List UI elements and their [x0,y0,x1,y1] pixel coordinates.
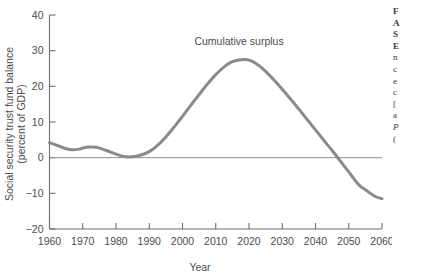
y-tick-label: 40 [32,9,44,21]
x-tick-label: 2010 [204,235,228,247]
caption-line: c [393,87,430,99]
y-tick-label: 20 [32,80,44,92]
caption-line: n [393,52,430,64]
caption-line: S [393,29,430,41]
caption-line: F [393,6,430,18]
x-tick-label: 2030 [271,235,295,247]
figure-root: 403020100−10−20 196019701980199020002010… [0,0,430,275]
x-tick-label: 1960 [38,235,62,247]
y-axis-ticks: 403020100−10−20 [26,9,56,235]
y-tick-label: 30 [32,44,44,56]
x-tick-label: 2000 [171,235,195,247]
caption-line: e [393,76,430,88]
x-axis-ticks: 1960197019801990200020102020203020402050… [38,223,392,247]
x-tick-label: 2020 [237,235,261,247]
x-tick-label: 1970 [71,235,95,247]
chart-plot-area: 403020100−10−20 196019701980199020002010… [0,0,392,275]
line-chart: 403020100−10−20 196019701980199020002010… [0,0,392,275]
caption-line: ( [393,134,430,146]
x-tick-label: 1980 [104,235,128,247]
caption-line: P [393,122,430,134]
x-axis-title: Year [189,261,211,273]
series-cumulative-surplus [50,59,383,198]
caption-line: c [393,64,430,76]
y-tick-label: 10 [32,116,44,128]
caption-line: a [393,110,430,122]
figure-caption-column: FASEncec[aP( [393,6,430,156]
caption-line: [ [393,99,430,111]
y-axis-title-line-1: Social security trust fund balance [3,47,15,201]
y-tick-label: −10 [26,187,44,199]
y-axis-title-line-2: (percent of GDP) [15,84,27,163]
x-tick-label: 2050 [337,235,361,247]
caption-line: E [393,41,430,53]
x-tick-label: 1990 [138,235,162,247]
caption-line: A [393,18,430,30]
x-tick-label: 2060 [370,235,392,247]
y-axis-title: Social security trust fund balance (perc… [3,47,27,201]
y-tick-label: 0 [38,151,44,163]
x-tick-label: 2040 [304,235,328,247]
y-tick-label: −20 [26,223,44,235]
annotation-cumulative-surplus: Cumulative surplus [194,35,283,47]
